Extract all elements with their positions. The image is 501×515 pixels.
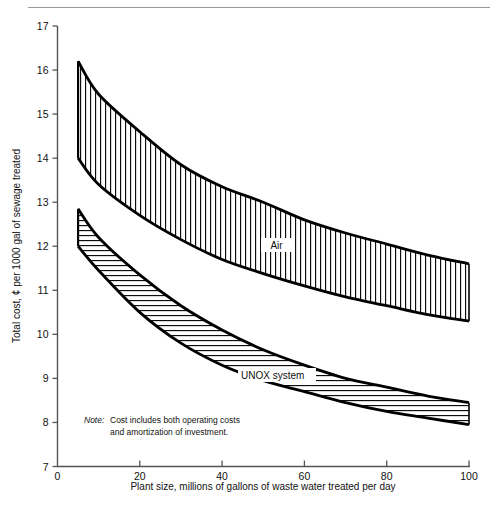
x-tick-label: 40 — [216, 470, 228, 482]
y-tick-label: 8 — [43, 416, 49, 428]
y-tick-label: 12 — [37, 240, 49, 252]
curve-label-air: Air — [270, 240, 283, 251]
x-tick-label: 20 — [134, 470, 146, 482]
y-tick-label: 9 — [43, 372, 49, 384]
x-axis-tick-labels: 020406080100 — [55, 470, 478, 482]
x-tick-label: 60 — [299, 470, 311, 482]
x-axis-title: Plant size, millions of gallons of waste… — [130, 481, 395, 492]
page-divider-rule — [28, 7, 490, 8]
y-tick-label: 13 — [37, 196, 49, 208]
figure-container: Air UNOX system 7891011121314151617 0204… — [0, 0, 501, 515]
curve-label-air-group: Air — [261, 238, 292, 252]
y-tick-label: 16 — [37, 64, 49, 76]
y-tick-label: 10 — [37, 328, 49, 340]
y-tick-label: 17 — [37, 20, 49, 32]
y-tick-label: 11 — [38, 284, 49, 296]
y-tick-label: 7 — [43, 461, 49, 473]
x-tick-label: 0 — [55, 470, 61, 482]
note-line-1: Cost includes both operating costs — [110, 415, 240, 425]
x-tick-label: 100 — [460, 470, 478, 482]
y-tick-label: 14 — [37, 152, 49, 164]
note-line-2: and amortization of investment. — [110, 427, 228, 437]
curve-label-unox-group: UNOX system — [238, 368, 316, 382]
y-axis-title: Total cost, ¢ per 1000 gal of sewage tre… — [11, 149, 22, 343]
y-tick-label: 15 — [37, 108, 49, 120]
note-prefix: Note: — [84, 415, 105, 425]
y-axis-ticks — [53, 26, 58, 467]
x-tick-label: 80 — [381, 470, 393, 482]
curve-label-unox: UNOX system — [241, 370, 304, 381]
y-axis-tick-labels: 7891011121314151617 — [37, 20, 49, 473]
chart-svg: Air UNOX system 7891011121314151617 0204… — [0, 0, 501, 515]
